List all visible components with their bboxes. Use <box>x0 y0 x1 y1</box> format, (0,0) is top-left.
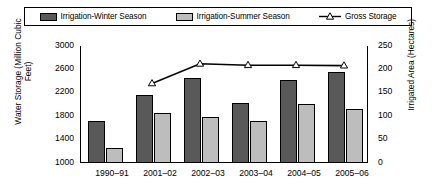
y-right-tick-50: 50 <box>378 134 408 143</box>
chart-container: Irrigation-Winter Season Irrigation-Summ… <box>0 0 434 192</box>
y-right-tick-250: 250 <box>378 41 408 50</box>
y-right-tick-100: 100 <box>378 111 408 120</box>
legend-swatch-summer <box>176 13 193 21</box>
legend-label-winter: Irrigation-Winter Season <box>61 12 147 21</box>
legend-item-irrigation-winter-season: Irrigation-Winter Season <box>40 12 147 21</box>
y-left-tick-2600: 2600 <box>44 64 74 73</box>
y-right-tick-200: 200 <box>378 64 408 73</box>
y-left-tick-2200: 2200 <box>44 87 74 96</box>
legend-label-gross-storage: Gross Storage <box>345 12 397 21</box>
legend-line-triangle-icon <box>319 12 341 21</box>
legend-item-irrigation-summer-season: Irrigation-Summer Season <box>176 12 290 21</box>
plot-area <box>80 46 368 163</box>
legend-label-summer: Irrigation-Summer Season <box>197 12 290 21</box>
y-left-tick-1800: 1800 <box>44 111 74 120</box>
chart-legend: Irrigation-Winter Season Irrigation-Summ… <box>24 7 412 26</box>
y-left-tick-3000: 3000 <box>44 41 74 50</box>
x-axis-label-2005-06: 2005–06 <box>322 168 382 178</box>
legend-swatch-winter <box>40 13 57 21</box>
y-left-tick-1400: 1400 <box>44 134 74 143</box>
y-axis-right-title: Irrigated Area (Hectares) <box>407 5 417 125</box>
y-left-tick-1000: 1000 <box>44 158 74 167</box>
legend-item-gross-storage: Gross Storage <box>319 12 397 21</box>
y-right-tick-0: 0 <box>378 158 408 167</box>
y-axis-left-title: Water Storage (Million Cubic Feet) <box>14 12 33 132</box>
y-right-tick-150: 150 <box>378 87 408 96</box>
gross-storage-series <box>80 46 368 163</box>
